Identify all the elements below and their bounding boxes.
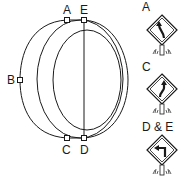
point-c-marker[interactable]: [65, 136, 70, 141]
middle-track-ellipse: [37, 20, 123, 138]
curve-left-road-sign-icon: [147, 15, 177, 55]
point-e-label: E: [80, 3, 88, 17]
track-diagram: A E B C D A C D & E: [0, 0, 190, 186]
sign-a-label: A: [142, 0, 150, 14]
point-a-label: A: [63, 3, 71, 17]
point-a-marker[interactable]: [65, 18, 70, 23]
point-d-label: D: [80, 143, 89, 157]
turn-left-road-sign-icon: [147, 135, 177, 175]
point-d-marker[interactable]: [82, 136, 87, 141]
sign-c-label: C: [142, 60, 151, 74]
outer-track-left-arc: [20, 20, 67, 138]
point-b-label: B: [7, 73, 15, 87]
point-c-label: C: [62, 143, 71, 157]
point-e-marker[interactable]: [82, 18, 87, 23]
sign-de-label: D & E: [142, 120, 173, 134]
reverse-curve-road-sign-icon: [147, 74, 177, 114]
inner-track-ellipse: [53, 30, 121, 130]
point-b-marker[interactable]: [18, 78, 23, 83]
